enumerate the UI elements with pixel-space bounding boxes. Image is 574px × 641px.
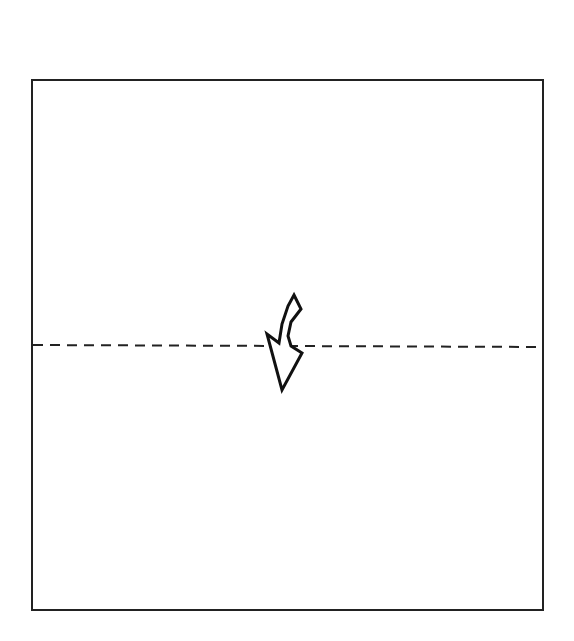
origami-diagram [0, 0, 574, 641]
